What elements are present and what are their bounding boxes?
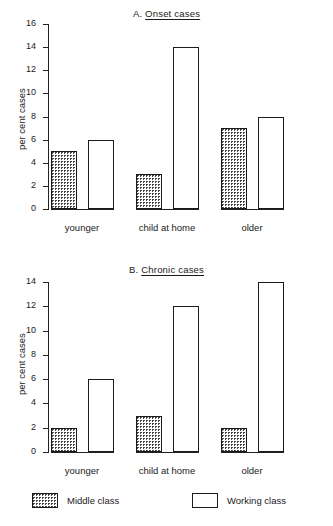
y-tick-0: 0 (43, 452, 48, 453)
chart-title-text: Chronic cases (141, 264, 204, 275)
x-axis-label-older: older (241, 465, 262, 476)
y-tick-label-4: 4 (31, 397, 36, 408)
chart-title-prefix: A. (133, 8, 142, 19)
y-tick-label-8: 8 (31, 111, 36, 122)
x-axis-label-child-at-home: child at home (139, 465, 196, 476)
y-tick-label-6: 6 (31, 373, 36, 384)
chart-panel-onset-cases: A. Onset cases 1614121086420 per cent ca… (0, 0, 333, 258)
y-tick-8: 8 (43, 117, 48, 118)
baseline-segment (136, 209, 199, 210)
y-tick-4: 4 (43, 403, 48, 404)
y-tick-label-6: 6 (31, 134, 36, 145)
baseline-segment (221, 209, 284, 210)
y-tick-label-8: 8 (31, 349, 36, 360)
y-tick-2: 2 (43, 186, 48, 187)
bar-middle-younger (51, 428, 77, 452)
figure-bar-charts: A. Onset cases 1614121086420 per cent ca… (0, 0, 333, 526)
x-axis-label-younger: younger (65, 465, 99, 476)
y-tick-12: 12 (43, 70, 48, 71)
y-tick-0: 0 (43, 209, 48, 210)
y-axis-label-onset: per cent cases (16, 88, 27, 150)
bar-middle-child-at-home (136, 174, 162, 209)
baseline-segment (51, 452, 114, 453)
y-tick-6: 6 (43, 379, 48, 380)
y-tick-10: 10 (43, 331, 48, 332)
bar-middle-older (221, 128, 247, 209)
y-tick-label-16: 16 (26, 18, 36, 29)
bar-working-younger (88, 140, 114, 209)
legend-item-working-class: Working class (192, 493, 286, 508)
y-tick-label-4: 4 (31, 157, 36, 168)
y-axis-line-chronic (48, 282, 49, 453)
bar-middle-younger (51, 151, 77, 209)
plot-area-onset: 1614121086420 (48, 24, 329, 209)
y-tick-12: 12 (43, 306, 48, 307)
y-tick-10: 10 (43, 93, 48, 94)
legend-label-middle-class: Middle class (67, 495, 119, 506)
y-tick-16: 16 (43, 24, 48, 25)
y-tick-label-2: 2 (31, 180, 36, 191)
chart-title-text: Onset cases (145, 8, 200, 19)
y-tick-label-2: 2 (31, 422, 36, 433)
y-tick-6: 6 (43, 140, 48, 141)
y-axis-line-onset (48, 24, 49, 210)
y-tick-label-10: 10 (26, 87, 36, 98)
chart-panel-chronic-cases: B. Chronic cases 14121086420 per cent ca… (0, 258, 333, 486)
y-tick-label-14: 14 (26, 41, 36, 52)
baseline-segment (136, 452, 199, 453)
x-axis-label-child-at-home: child at home (139, 222, 196, 233)
bar-working-younger (88, 379, 114, 452)
chart-title-chronic: B. Chronic cases (0, 264, 333, 275)
x-axis-label-older: older (241, 222, 262, 233)
y-tick-label-0: 0 (31, 446, 36, 457)
bar-working-child-at-home (173, 306, 199, 452)
x-axis-label-younger: younger (65, 222, 99, 233)
y-axis-label-chronic: per cent cases (16, 333, 27, 395)
chart-title-onset: A. Onset cases (0, 8, 333, 19)
legend-swatch-working-class-icon (192, 493, 218, 508)
legend-swatch-middle-class-icon (32, 493, 58, 508)
y-tick-4: 4 (43, 163, 48, 164)
bar-working-child-at-home (173, 47, 199, 209)
legend-label-working-class: Working class (227, 495, 286, 506)
y-tick-label-10: 10 (26, 325, 36, 336)
chart-legend: Middle class Working class (0, 489, 333, 519)
bar-working-older (258, 282, 284, 452)
y-tick-label-12: 12 (26, 64, 36, 75)
y-tick-label-14: 14 (26, 276, 36, 287)
y-tick-label-0: 0 (31, 203, 36, 214)
y-tick-14: 14 (43, 282, 48, 283)
bar-middle-older (221, 428, 247, 452)
chart-title-prefix: B. (129, 264, 138, 275)
plot-area-chronic: 14121086420 (48, 282, 329, 452)
y-tick-14: 14 (43, 47, 48, 48)
y-tick-label-12: 12 (26, 300, 36, 311)
y-tick-8: 8 (43, 355, 48, 356)
baseline-segment (221, 452, 284, 453)
y-tick-2: 2 (43, 428, 48, 429)
legend-item-middle-class: Middle class (32, 493, 119, 508)
bar-working-older (258, 117, 284, 210)
bar-middle-child-at-home (136, 416, 162, 452)
baseline-segment (51, 209, 114, 210)
